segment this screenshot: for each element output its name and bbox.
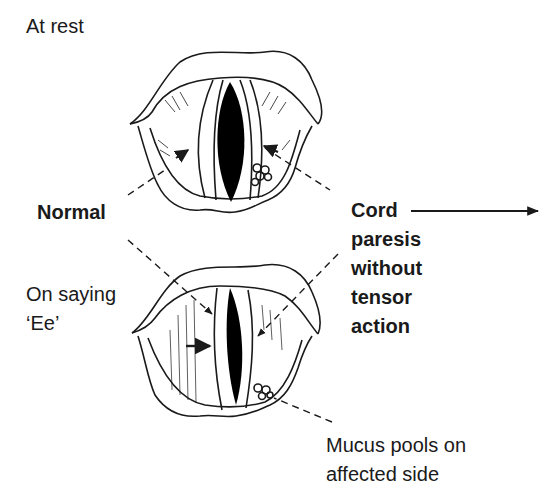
label-cord: Cord xyxy=(351,196,398,225)
larynx-saying-ee xyxy=(132,265,320,417)
label-action: action xyxy=(351,312,410,341)
glottis-saying-ee xyxy=(227,288,243,405)
label-mucus-pools: Mucus pools on xyxy=(326,431,466,460)
arrow-icon xyxy=(176,150,188,158)
label-tensor: tensor xyxy=(351,283,412,312)
label-normal: Normal xyxy=(37,198,106,227)
glottis-at-rest xyxy=(217,82,244,202)
label-ee: ‘Ee’ xyxy=(26,309,59,338)
label-affected-side: affected side xyxy=(326,460,439,489)
larynx-illustration xyxy=(0,0,544,502)
label-on-saying: On saying xyxy=(26,280,116,309)
label-paresis: paresis xyxy=(351,225,421,254)
label-at-rest: At rest xyxy=(26,12,84,41)
label-without: without xyxy=(351,254,422,283)
